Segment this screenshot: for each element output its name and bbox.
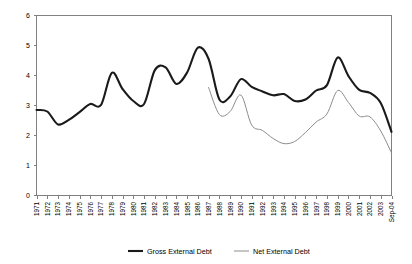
y-tick-label: 5 [26, 42, 30, 49]
plot-frame [37, 16, 392, 196]
y-tick-label: 0 [26, 192, 30, 199]
y-axis-labels: 6 5 4 3 2 1 0 [26, 12, 30, 199]
x-tick-label: 1974 [65, 202, 72, 217]
x-tick-label: 1976 [87, 202, 94, 217]
x-tick-label: 1986 [194, 202, 201, 217]
x-tick-label: 1977 [97, 202, 104, 217]
chart-legend: Gross External Debt Net External Debt [128, 247, 310, 256]
y-tick-label: 3 [26, 102, 30, 109]
chart-container: 6 5 4 3 2 1 0 19711972197319741975197619… [0, 0, 412, 264]
y-tick-label: 2 [26, 132, 30, 139]
x-tick-label: 2000 [345, 202, 352, 217]
x-tick-label: 1984 [173, 202, 180, 217]
x-tick-label: 2002 [366, 202, 373, 217]
x-tick-label: 1980 [130, 202, 137, 217]
x-tick-label: 1985 [184, 202, 191, 217]
x-tick-label: 1996 [302, 202, 309, 217]
y-tick-label: 1 [26, 162, 30, 169]
x-tick-label: 1999 [334, 202, 341, 217]
x-tick-label: 1990 [237, 202, 244, 217]
series-line-gross-external-debt [37, 47, 392, 132]
legend-label-gross-external-debt: Gross External Debt [147, 247, 212, 256]
x-axis-labels: 1971197219731974197519761977197819791980… [33, 202, 396, 223]
x-tick-label: 1994 [280, 202, 287, 217]
x-tick-label: 1991 [248, 202, 255, 217]
external-debt-line-chart: 6 5 4 3 2 1 0 19711972197319741975197619… [0, 0, 412, 264]
x-tick-label: 1973 [54, 202, 61, 217]
x-tick-label: 2001 [356, 202, 363, 217]
x-tick-label: 1978 [108, 202, 115, 217]
series-group [37, 47, 392, 153]
x-tick-label: 1971 [33, 202, 40, 217]
series-line-net-external-debt [209, 88, 392, 153]
x-tick-label: 1981 [140, 202, 147, 217]
x-tick-label: 1989 [227, 202, 234, 217]
x-tick-label: 1979 [119, 202, 126, 217]
x-tick-label: 1998 [323, 202, 330, 217]
y-tick-label: 4 [26, 72, 30, 79]
x-tick-label: 1982 [151, 202, 158, 217]
x-tick-label: 1997 [313, 202, 320, 217]
y-tick-label: 6 [26, 12, 30, 19]
x-tick-label: Sep-04 [388, 202, 396, 223]
legend-label-net-external-debt: Net External Debt [253, 247, 310, 256]
x-tick-label: 1983 [162, 202, 169, 217]
x-tick-label: 1988 [216, 202, 223, 217]
x-tick-label: 2003 [377, 202, 384, 217]
x-tick-label: 1995 [291, 202, 298, 217]
x-tick-label: 1972 [44, 202, 51, 217]
x-tick-label: 1993 [270, 202, 277, 217]
x-tick-label: 1987 [205, 202, 212, 217]
x-tick-label: 1992 [259, 202, 266, 217]
x-tick-label: 1975 [76, 202, 83, 217]
